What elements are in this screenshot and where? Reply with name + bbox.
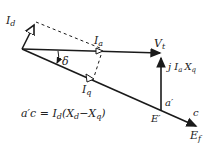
- vt-phasor: [22, 49, 160, 53]
- label-iq: Iq: [81, 83, 91, 97]
- label-ef: Ef: [189, 129, 203, 143]
- ia-arrowhead: [96, 48, 103, 54]
- label-a-prime: a′: [165, 97, 174, 108]
- label-c: c: [193, 107, 199, 118]
- id-phasor: [22, 25, 34, 49]
- label-id: Id: [5, 14, 15, 28]
- id-ia-dashed: [36, 22, 100, 48]
- label-e-prime: E′: [150, 113, 161, 124]
- label-vt: Vt: [154, 37, 166, 51]
- label-delta: δ: [62, 55, 69, 68]
- delta-arc: [57, 51, 59, 63]
- ia-iq-dashed: [94, 55, 101, 77]
- equation: a′c = Id(Xd−Xq): [21, 107, 106, 121]
- label-jiaxq: j IaXq: [166, 61, 197, 74]
- phasor-diagram: Id Ia δ Iq Vt j IaXq a′ E′ c Ef a′c = Id…: [0, 0, 215, 149]
- label-ia: Ia: [93, 34, 103, 48]
